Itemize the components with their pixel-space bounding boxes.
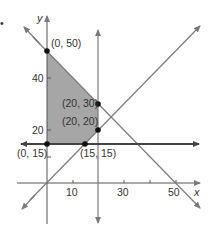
point-15-15 [82, 141, 88, 147]
line-y-equals-x-start [22, 195, 35, 209]
label-0-50: (0, 50) [51, 37, 81, 49]
point-0-50 [44, 48, 50, 54]
label-20-30: (20, 30) [62, 97, 98, 109]
point-20-20 [95, 127, 101, 133]
list-bullet: • [0, 17, 4, 29]
feasible-region-graph: • y x 10 30 50 20 40 (0, 50) (20, [0, 0, 211, 229]
x-axis-label: x [193, 186, 200, 198]
x-tick-50: 50 [168, 186, 180, 198]
y-tick-40: 40 [32, 72, 44, 84]
y-axis-label: y [36, 12, 44, 24]
x-tick-10: 10 [66, 186, 78, 198]
x-tick-30: 30 [117, 186, 129, 198]
label-0-15: (0, 15) [17, 147, 47, 159]
y-tick-20: 20 [32, 124, 44, 136]
label-20-20: (20, 20) [62, 115, 98, 127]
line-x-plus-y-50-start [24, 27, 40, 44]
point-0-15 [44, 141, 50, 147]
label-15-15: (15, 15) [80, 147, 116, 159]
